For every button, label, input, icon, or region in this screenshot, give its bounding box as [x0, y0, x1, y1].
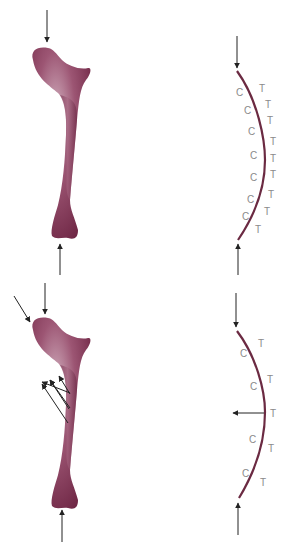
label-t: T — [270, 169, 276, 180]
label-c: C — [236, 87, 243, 98]
label-t: T — [260, 477, 266, 488]
label-c: C — [250, 381, 257, 392]
label-t: T — [255, 224, 261, 235]
label-c: C — [242, 211, 249, 222]
label-t: T — [267, 115, 273, 126]
label-t: T — [270, 408, 276, 419]
label-t: T — [259, 83, 265, 94]
load-arrow-diagonal — [14, 296, 30, 322]
label-t: T — [268, 189, 274, 200]
label-c: C — [250, 150, 257, 161]
label-c: C — [247, 194, 254, 205]
label-c: C — [240, 348, 247, 359]
label-t: T — [258, 338, 264, 349]
label-t: T — [270, 153, 276, 164]
femur-shape — [32, 48, 90, 239]
label-c: C — [242, 468, 249, 479]
compression-labels-top: C C C C C C C — [236, 87, 257, 222]
label-c: C — [249, 434, 256, 445]
label-t: T — [265, 99, 271, 110]
label-c: C — [250, 172, 257, 183]
label-t: T — [264, 206, 270, 217]
label-t: T — [267, 374, 273, 385]
muscle-pull-arrow-a — [42, 384, 68, 423]
femur-top — [32, 48, 90, 239]
diagram-canvas: C C C C C C C T T T T T T T T T C C C C — [0, 0, 282, 545]
label-c: C — [248, 126, 255, 137]
label-t: T — [268, 443, 274, 454]
label-t: T — [270, 136, 276, 147]
label-c: C — [244, 105, 251, 116]
